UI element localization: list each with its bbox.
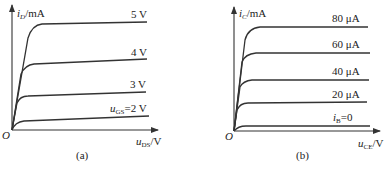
y-axis-label-a: iD/mA [17, 7, 45, 21]
figure: iD/mA 5 V 4 V 3 V uGS=2 V O uDS/V (a) iC… [0, 0, 386, 169]
curve-label-3v: 3 V [130, 78, 146, 90]
panel-b: iC/mA 80 μA 60 μA 40 μA 20 μA iB=0 O uCE… [225, 7, 384, 162]
origin-label-b: O [225, 130, 233, 142]
curve-label-20ua: 20 μA [332, 88, 360, 100]
curve-label-80ua: 80 μA [332, 12, 360, 24]
curve-label-40ua: 40 μA [332, 65, 360, 77]
curve-2v [12, 116, 149, 130]
caption-a: (a) [76, 149, 89, 162]
origin-label-a: O [2, 129, 10, 141]
curve-label-4v: 4 V [131, 46, 147, 58]
curve-label-5v: 5 V [131, 8, 147, 20]
curve-label-ib0: iB=0 [333, 111, 353, 125]
panel-a: iD/mA 5 V 4 V 3 V uGS=2 V O uDS/V (a) [2, 5, 162, 162]
caption-b: (b) [296, 149, 309, 162]
characteristic-curves: iD/mA 5 V 4 V 3 V uGS=2 V O uDS/V (a) iC… [0, 0, 386, 169]
x-axis-label-a: uDS/V [136, 135, 162, 149]
curve-ib0 [234, 126, 370, 131]
y-axis-label-b: iC/mA [239, 7, 266, 21]
x-axis-label-b: uCE/V [358, 137, 384, 151]
curve-label-60ua: 60 μA [332, 38, 360, 50]
curve-label-2v: uGS=2 V [110, 102, 147, 116]
